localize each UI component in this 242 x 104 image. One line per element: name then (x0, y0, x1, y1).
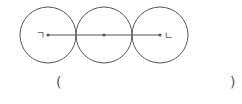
answer-blank[interactable] (70, 74, 225, 92)
center-point-right (158, 33, 161, 36)
center-point-left (46, 33, 49, 36)
center-point-middle (102, 33, 105, 36)
answer-close-paren: ) (230, 74, 235, 90)
answer-open-paren: ( (56, 74, 61, 90)
point-label-left: ㄱ (36, 30, 45, 41)
point-label-right: ㄴ (164, 30, 173, 41)
